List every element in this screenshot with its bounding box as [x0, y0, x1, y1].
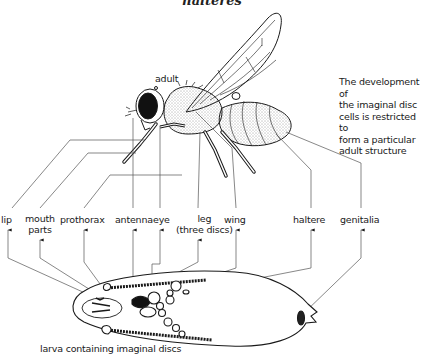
label-mouth-parts: mouth parts — [25, 214, 55, 235]
development-note: The development of the imaginal disc cel… — [339, 76, 424, 157]
larva-illustration — [73, 271, 317, 346]
imaginal-disc-diagram: halteres — [0, 0, 424, 360]
label-genitalia: genitalia — [340, 214, 379, 225]
label-prothorax: prothorax — [60, 214, 105, 225]
adult-label: adult — [155, 73, 178, 84]
label-antenna: antenna — [115, 214, 153, 225]
label-wing: wing — [224, 214, 246, 225]
label-eye: eye — [153, 214, 170, 225]
label-haltere: haltere — [293, 214, 325, 225]
adult-fly-illustration — [124, 13, 291, 176]
diagram-drawing — [0, 0, 424, 360]
label-lip: lip — [1, 214, 12, 225]
larva-caption: larva containing imaginal discs — [40, 343, 181, 354]
